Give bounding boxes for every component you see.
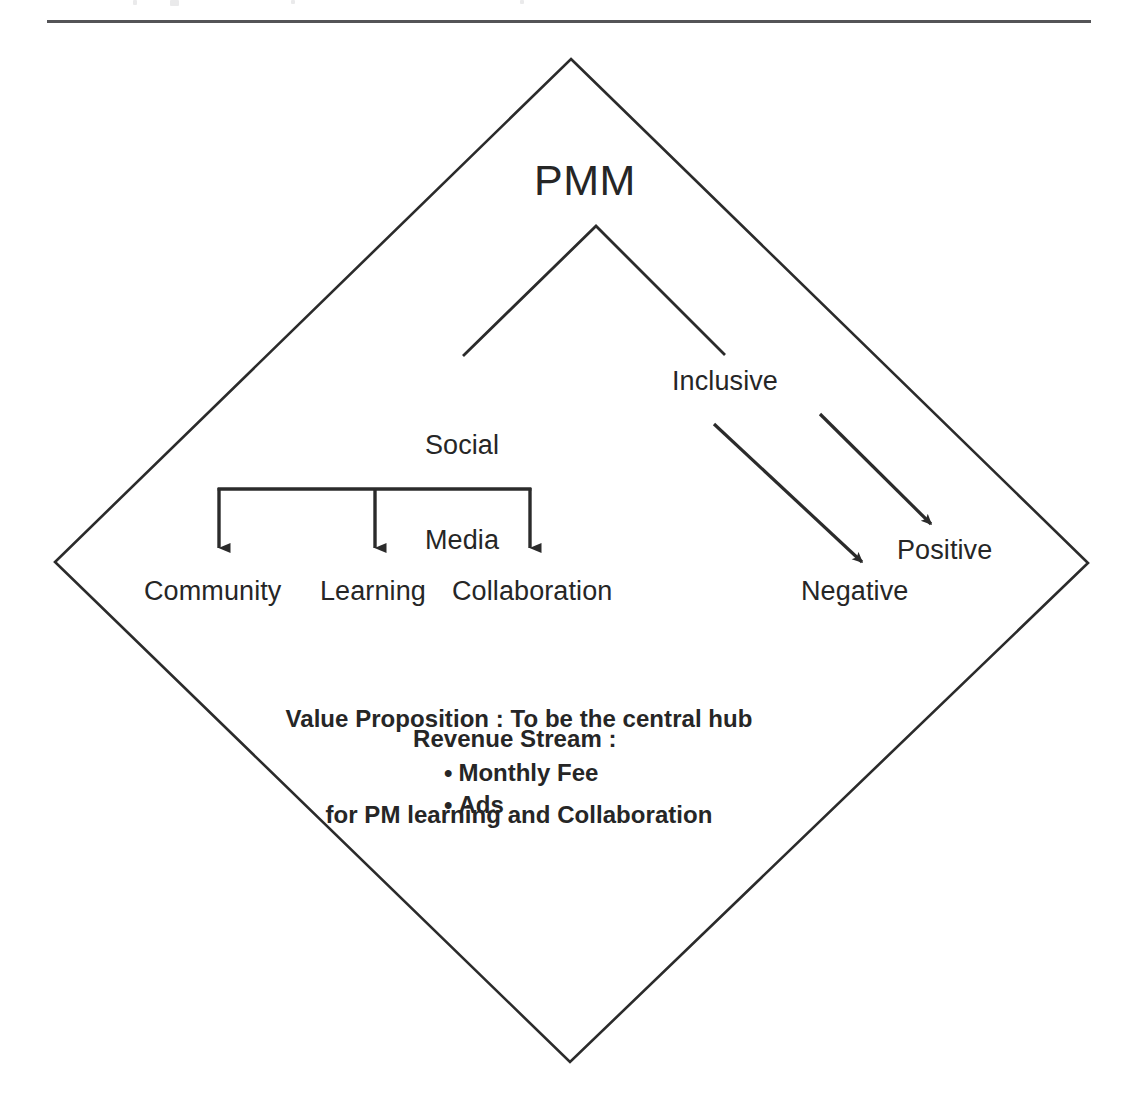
revenue-stream-item: Monthly Fee [444, 757, 598, 789]
node-social-media-line1: Social [406, 430, 518, 462]
scan-artifact [291, 0, 295, 4]
revenue-stream-item: Ads [444, 789, 598, 821]
node-pmm-title: PMM [534, 155, 636, 206]
scan-artifact [133, 0, 137, 5]
node-collaboration: Collaboration [452, 576, 612, 608]
node-negative: Negative [801, 576, 908, 608]
scan-artifact [520, 0, 524, 4]
revenue-stream-list: Monthly Fee Ads [444, 757, 598, 821]
outcome-arrow-positive [820, 414, 931, 524]
scan-artifact [170, 0, 179, 6]
node-social-media-line2: Media [406, 525, 518, 557]
node-inclusive: Inclusive [672, 366, 778, 398]
outcome-arrow-negative [714, 424, 862, 562]
node-positive: Positive [897, 535, 992, 567]
revenue-stream-title: Revenue Stream : [413, 725, 617, 753]
node-learning: Learning [320, 576, 426, 608]
node-community: Community [144, 576, 281, 608]
root-branch-connector [463, 226, 725, 356]
diagram-canvas: PMM Social Media Inclusive Community Lea… [0, 0, 1133, 1113]
